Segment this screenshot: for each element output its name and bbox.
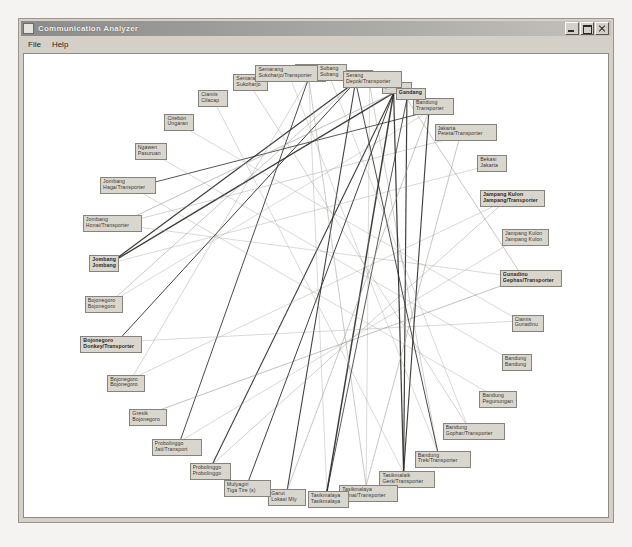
network-edge [216,104,404,473]
node-label-line2: Donkey/Transporter [83,344,139,350]
network-node[interactable]: JombangJombang [89,255,119,272]
node-label-line2: Gophar/Transporter [446,431,502,437]
network-edge [287,111,429,490]
network-node[interactable]: BojonegoroBojonegoro [107,375,145,392]
close-button[interactable] [595,22,609,35]
network-node[interactable]: CiamisGunadinu [512,315,544,332]
node-label-line2: Depok/Transporter [346,79,399,85]
network-node[interactable]: BandungTrek/Transporter [415,451,471,468]
node-label-line2: Haga/Transporter [103,185,153,191]
network-node[interactable]: MulyagiriTiga Tire (s) [224,480,271,497]
node-label-line2: Honai/Transporter [86,223,139,229]
node-label-line2: Jakarta [480,163,504,169]
node-label-line2: Jampang Kulon [505,237,546,243]
app-icon [23,23,34,34]
network-node[interactable]: SemarangSukoharjo/Transporter [255,65,326,82]
node-label-line2: Pasuruan [138,151,164,157]
node-label-line2: Bojonegoro [110,382,142,388]
network-node[interactable]: GunadinuGephas/Transporter [500,270,562,287]
maximize-button[interactable] [580,22,594,35]
node-label-line1: Gandang [399,90,423,96]
network-node[interactable]: BekasiJakarta [477,155,507,172]
node-label-line2: Jati/Transport [155,447,199,453]
node-label-line2: Ungaran [167,121,191,127]
network-node[interactable]: TasikmalayaTasikmalaya [308,491,349,508]
minimize-button[interactable] [565,22,579,35]
node-label-line2: Trek/Transporter [418,458,468,464]
network-edge [117,82,356,342]
network-node[interactable]: CirebonUngaran [164,114,194,131]
application-window: Communication Analyzer File Help Jakarta… [18,18,614,523]
network-node[interactable]: NgawenPasuruan [135,143,167,160]
network-node[interactable]: Gandang [396,88,426,100]
menu-item-file[interactable]: File [24,39,48,50]
network-edge [249,93,394,481]
node-label-line2: Transporter [416,106,451,112]
network-node[interactable]: GresikBojonegoro [129,409,167,426]
node-label-line2: Lokasi Mly [271,497,303,503]
network-edge [404,99,407,473]
network-node[interactable]: SerangDepok/Transporter [343,71,402,88]
network-node[interactable]: BojonegoroDonkey/Transporter [80,336,142,353]
title-bar: Communication Analyzer [21,21,611,36]
node-label-line2: Tiga Tire (s) [227,488,268,494]
network-node[interactable]: Jampang KulonJampang/Transporter [480,190,545,207]
node-label-line2: Jampang/Transporter [483,198,542,204]
network-node[interactable]: JombangHonai/Transporter [83,215,142,232]
network-node[interactable]: ProbolinggoJati/Transport [152,439,202,456]
node-label-line2: Sukoharjo [236,82,265,88]
node-label-line2: Subang [320,72,344,78]
network-edge [394,93,404,473]
network-node[interactable]: BandungPegunungan [479,391,517,408]
graph-canvas[interactable]: JakartaPusatporterporterBandungTransport… [23,53,609,518]
network-node[interactable]: JakartaPeteta/Transporter [435,124,497,141]
network-edge [118,136,460,224]
node-label-line2: Bojonegoro [132,417,164,423]
network-edge [291,79,438,452]
node-label-line2: Jombang [92,263,116,269]
network-node[interactable]: GarutLokasi Mly [268,489,306,506]
network-edge [118,224,523,277]
network-edge [153,278,524,413]
node-label-line2: Honai/Transporter [342,493,395,499]
node-label-line2: Sukoharjo/Transporter [258,73,323,79]
menu-bar: File Help [21,37,611,51]
network-node[interactable]: BandungBandung [502,354,532,371]
page-backdrop: Communication Analyzer File Help Jakarta… [0,0,632,547]
node-label-line2: Bojonegoro [88,304,120,310]
node-label-line2: Tasikmalaya [311,499,346,505]
network-edge [180,238,518,441]
node-label-line2: Probolinggo [193,471,228,477]
network-node[interactable]: ProbolinggoProbolinggo [190,463,231,480]
node-label-line2: Gunadinu [515,322,541,328]
node-label-line2: Cilacap [201,98,225,104]
network-node[interactable]: JombangHaga/Transporter [100,177,156,194]
network-node[interactable]: BandungTransporter [413,98,454,115]
network-edge [117,321,520,342]
menu-item-help[interactable]: Help [48,39,75,50]
node-label-line2: Peteta/Transporter [438,131,494,137]
network-node[interactable]: BojonegoroBojonegoro [85,296,123,313]
node-label-line2: Bandung [505,362,529,368]
network-edge [180,78,309,441]
window-title: Communication Analyzer [38,24,564,33]
network-node[interactable]: CiamisCilacap [198,90,228,107]
network-edge [404,111,429,472]
node-label-line2: Pegunungan [482,399,514,405]
network-node[interactable]: Jampang KulonJampang Kulon [502,229,549,246]
node-label-line2: Gephas/Transporter [503,278,559,284]
network-node[interactable]: BandungGophar/Transporter [443,423,505,440]
